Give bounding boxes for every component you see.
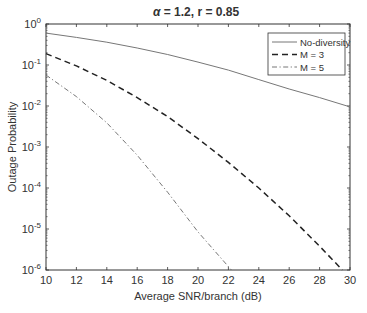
x-tick-label: 18: [161, 274, 173, 286]
y-tick-label: 10-3: [22, 139, 42, 153]
y-axis-label: Outage Probability: [6, 101, 18, 192]
series-line-2: [46, 54, 342, 270]
legend-label: M = 3: [300, 49, 324, 60]
legend: No-diversityM = 3M = 5: [268, 33, 350, 75]
x-tick-label: 12: [70, 274, 82, 286]
y-tick-label: 10-5: [22, 221, 42, 235]
outage-probability-chart: α = 1.2, r = 0.85 1012141618202224262830…: [0, 0, 367, 313]
x-tick-label: 26: [283, 274, 295, 286]
x-tick-label: 10: [40, 274, 52, 286]
x-axis-label: Average SNR/branch (dB): [134, 290, 262, 302]
x-tick-labels: 1012141618202224262830: [40, 274, 356, 286]
x-tick-label: 28: [313, 274, 325, 286]
x-tick-label: 16: [131, 274, 143, 286]
y-tick-labels: 10010-110-210-310-410-510-6: [22, 16, 42, 276]
title-text: = 1.2, r = 0.85: [160, 5, 239, 19]
x-tick-label: 22: [222, 274, 234, 286]
series-line-3: [46, 75, 231, 270]
legend-label: No-diversity: [300, 37, 350, 48]
y-tick-label: 10-6: [22, 262, 42, 276]
y-tick-label: 100: [24, 16, 41, 30]
legend-label: M = 5: [300, 62, 324, 73]
x-tick-label: 30: [344, 274, 356, 286]
x-tick-label: 14: [101, 274, 113, 286]
x-tick-label: 24: [253, 274, 265, 286]
y-tick-label: 10-4: [22, 180, 42, 194]
chart-title: α = 1.2, r = 0.85: [153, 5, 240, 19]
y-tick-label: 10-1: [22, 57, 42, 71]
x-tick-label: 20: [192, 274, 204, 286]
y-tick-label: 10-2: [22, 98, 42, 112]
